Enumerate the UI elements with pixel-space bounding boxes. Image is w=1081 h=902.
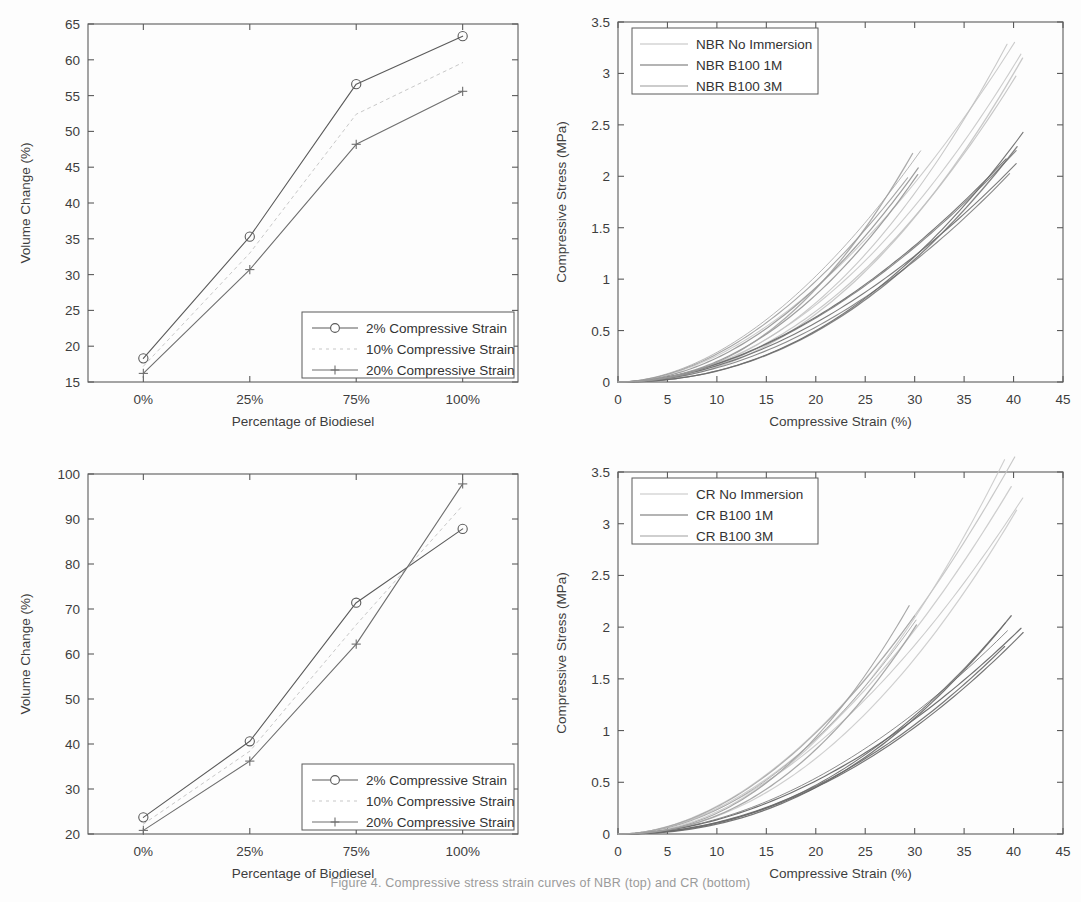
stress-strain-cr-plot: 00.511.522.533.5051015202530354045Compre… xyxy=(554,457,1071,881)
y-tick-label: 35 xyxy=(65,232,80,247)
y-tick-label: 20 xyxy=(65,827,80,842)
chart-legend: CR No ImmersionCR B100 1MCR B100 3M xyxy=(632,478,818,544)
y-tick-label: 50 xyxy=(65,124,80,139)
chart-legend: NBR No ImmersionNBR B100 1MNBR B100 3M xyxy=(632,28,818,94)
x-tick-label: 15 xyxy=(759,844,774,859)
figure-panel-grid: 15202530354045505560650%25%75%100%Volume… xyxy=(0,0,1081,902)
x-tick-label: 20 xyxy=(808,392,823,407)
x-tick-label: 0 xyxy=(614,392,622,407)
x-tick-label: 30 xyxy=(907,392,922,407)
y-tick-label: 0.5 xyxy=(591,775,610,790)
stress-strain-curve xyxy=(618,178,908,382)
y-tick-label: 45 xyxy=(65,160,80,175)
stress-strain-nbr-plot: 00.511.522.533.5051015202530354045Compre… xyxy=(554,15,1071,429)
legend-label: 20% Compressive Strain xyxy=(366,363,515,378)
y-tick-label: 15 xyxy=(65,375,80,390)
stress-strain-curve xyxy=(618,76,1016,382)
x-axis-title: Percentage of Biodiesel xyxy=(232,414,375,429)
legend-label: CR B100 1M xyxy=(696,508,773,523)
x-tick-label: 45 xyxy=(1055,392,1070,407)
x-tick-label: 25% xyxy=(236,844,263,859)
chart-panel-bottom-left: 20304050607080901000%25%75%100%Volume Ch… xyxy=(0,450,540,902)
stress-strain-curve xyxy=(618,54,1021,382)
x-tick-label: 100% xyxy=(445,392,480,407)
y-tick-label: 40 xyxy=(65,196,80,211)
y-tick-label: 30 xyxy=(65,782,80,797)
y-axis-title: Compressive Stress (MPa) xyxy=(554,121,569,282)
y-tick-label: 3 xyxy=(602,517,610,532)
x-tick-label: 10 xyxy=(709,392,724,407)
stress-strain-curve xyxy=(618,44,1007,382)
x-tick-label: 100% xyxy=(445,844,480,859)
stress-strain-curve xyxy=(618,147,1017,382)
y-axis-title: Volume Change (%) xyxy=(18,594,33,715)
y-tick-label: 90 xyxy=(65,512,80,527)
x-tick-label: 15 xyxy=(759,392,774,407)
x-tick-label: 10 xyxy=(709,844,724,859)
stress-strain-curve xyxy=(618,631,1007,834)
legend-marker xyxy=(331,776,340,785)
x-tick-label: 25 xyxy=(858,392,873,407)
y-tick-label: 1 xyxy=(602,724,610,739)
legend-marker xyxy=(331,324,340,333)
stress-strain-curve xyxy=(618,132,1023,382)
x-tick-label: 35 xyxy=(957,844,972,859)
stress-strain-cr-svg: 00.511.522.533.5051015202530354045Compre… xyxy=(540,450,1081,902)
y-tick-label: 0 xyxy=(602,375,610,390)
volume-change-cr-svg: 20304050607080901000%25%75%100%Volume Ch… xyxy=(0,450,540,902)
x-tick-label: 20 xyxy=(808,844,823,859)
series-line xyxy=(143,36,462,358)
chart-panel-bottom-right: 00.511.522.533.5051015202530354045Compre… xyxy=(540,450,1081,902)
y-axis-title: Volume Change (%) xyxy=(18,143,33,264)
stress-strain-curve xyxy=(618,616,1011,834)
y-tick-label: 25 xyxy=(65,303,80,318)
stress-strain-curve xyxy=(618,151,921,382)
stress-strain-curve xyxy=(618,159,1006,382)
y-tick-label: 55 xyxy=(65,89,80,104)
legend-label: CR B100 3M xyxy=(696,529,773,544)
stress-strain-curve xyxy=(618,164,1016,382)
legend-label: NBR B100 3M xyxy=(696,79,782,94)
y-tick-label: 2.5 xyxy=(591,118,610,133)
y-tick-label: 20 xyxy=(65,339,80,354)
y-axis-title: Compressive Stress (MPa) xyxy=(554,572,569,733)
legend-label: 2% Compressive Strain xyxy=(366,773,507,788)
stress-strain-curve xyxy=(618,632,1023,834)
stress-strain-curve xyxy=(618,620,916,834)
legend-label: NBR B100 1M xyxy=(696,58,782,73)
y-tick-label: 100 xyxy=(57,467,80,482)
y-tick-label: 50 xyxy=(65,692,80,707)
y-tick-label: 65 xyxy=(65,17,80,32)
stress-strain-nbr-svg: 00.511.522.533.5051015202530354045Compre… xyxy=(540,0,1081,450)
legend-label: NBR No Immersion xyxy=(696,37,812,52)
y-tick-label: 2.5 xyxy=(591,568,610,583)
y-tick-label: 60 xyxy=(65,53,80,68)
chart-panel-top-right: 00.511.522.533.5051015202530354045Compre… xyxy=(540,0,1081,450)
y-tick-label: 1 xyxy=(602,272,610,287)
legend-label: 10% Compressive Strain xyxy=(366,342,515,357)
stress-strain-curve xyxy=(618,647,1005,834)
legend-label: 10% Compressive Strain xyxy=(366,794,515,809)
x-tick-label: 75% xyxy=(343,844,370,859)
y-tick-label: 30 xyxy=(65,268,80,283)
x-tick-label: 5 xyxy=(664,844,672,859)
x-tick-label: 45 xyxy=(1055,844,1070,859)
y-tick-label: 0 xyxy=(602,827,610,842)
x-tick-label: 30 xyxy=(907,844,922,859)
x-tick-label: 75% xyxy=(343,392,370,407)
volume-change-nbr-svg: 15202530354045505560650%25%75%100%Volume… xyxy=(0,0,540,450)
x-tick-label: 25 xyxy=(858,844,873,859)
figure-caption: Figure 4. Compressive stress strain curv… xyxy=(0,876,1081,896)
y-tick-label: 70 xyxy=(65,602,80,617)
stress-strain-curve xyxy=(618,151,1016,382)
stress-strain-curve xyxy=(618,623,1005,834)
x-axis-title: Compressive Strain (%) xyxy=(769,414,912,429)
y-tick-label: 3.5 xyxy=(591,15,610,30)
stress-strain-curve xyxy=(618,628,1021,834)
volume-change-nbr-plot: 15202530354045505560650%25%75%100%Volume… xyxy=(18,17,518,429)
y-tick-label: 2 xyxy=(602,620,610,635)
y-tick-label: 1.5 xyxy=(591,221,610,236)
y-tick-label: 0.5 xyxy=(591,324,610,339)
chart-legend: 2% Compressive Strain10% Compressive Str… xyxy=(302,764,515,830)
x-tick-label: 5 xyxy=(664,392,672,407)
